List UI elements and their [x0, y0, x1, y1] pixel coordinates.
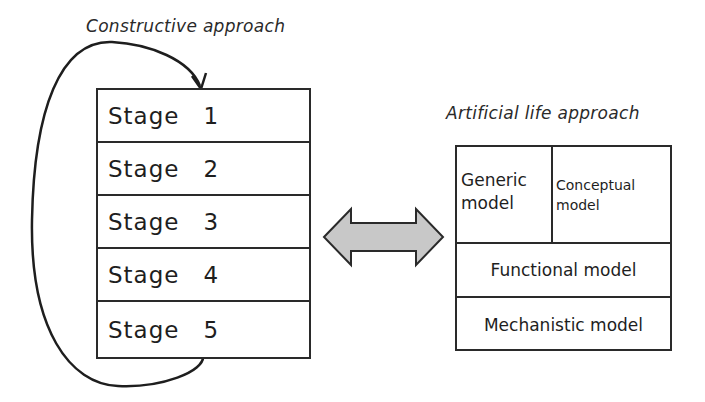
stage-label: Stage — [108, 262, 179, 288]
conceptual-model-cell: Conceptual model — [553, 147, 670, 242]
stage-stack: Stage1 Stage2 Stage3 Stage4 Stage5 — [96, 88, 311, 359]
stage-4: Stage4 — [98, 249, 309, 302]
stage-label: Stage — [108, 103, 179, 129]
stage-2: Stage2 — [98, 143, 309, 196]
stage-number: 1 — [203, 103, 219, 129]
conceptual-model-line1: Conceptual — [556, 175, 670, 195]
stage-label: Stage — [108, 317, 179, 343]
generic-model-line1: Generic — [461, 169, 551, 192]
functional-model-cell: Functional model — [457, 244, 670, 298]
double-arrow-icon — [324, 209, 443, 265]
stage-label: Stage — [108, 209, 179, 235]
constructive-approach-title: Constructive approach — [86, 16, 285, 36]
generic-model-line2: model — [461, 192, 551, 215]
model-stack: Generic model Conceptual model Functiona… — [455, 145, 672, 351]
stage-5: Stage5 — [98, 302, 309, 357]
artificial-life-approach-title: Artificial life approach — [446, 103, 640, 123]
stage-number: 5 — [203, 317, 219, 343]
stage-1: Stage1 — [98, 90, 309, 143]
model-top-row: Generic model Conceptual model — [457, 147, 670, 244]
conceptual-model-line2: model — [556, 195, 670, 215]
stage-3: Stage3 — [98, 196, 309, 249]
generic-model-cell: Generic model — [457, 147, 553, 242]
stage-number: 2 — [203, 156, 219, 182]
stage-number: 4 — [203, 262, 219, 288]
mechanistic-model-cell: Mechanistic model — [457, 298, 670, 352]
stage-label: Stage — [108, 156, 179, 182]
stage-number: 3 — [203, 209, 219, 235]
